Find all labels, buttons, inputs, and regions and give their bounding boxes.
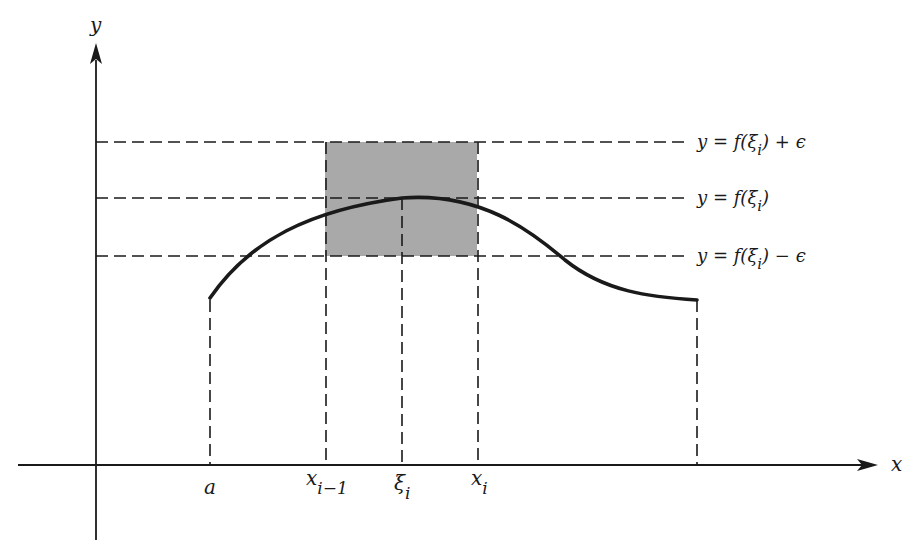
lower-prefix: y = f(ξ — [696, 245, 758, 266]
label-lower-bound: y = f(ξi) − ϵ — [696, 245, 806, 273]
upper-prefix: y = f(ξ — [696, 131, 758, 152]
label-function-value: y = f(ξi) — [696, 187, 769, 215]
tick-x-i-minus-1-base: x — [306, 466, 317, 490]
lower-suffix: ) − ϵ — [761, 245, 806, 266]
tick-x-i-base: x — [471, 466, 482, 490]
tick-x-i-minus-1-sub: i−1 — [317, 478, 348, 498]
upper-suffix: ) + ϵ — [761, 131, 806, 152]
tick-label-a: a — [204, 475, 216, 499]
epsilon-band-diagram: y x a xi−1 ξi xi y = f(ξi) + ϵ y = f(ξi)… — [0, 0, 919, 553]
tick-xi-i-sub: i — [405, 483, 410, 503]
middle-prefix: y = f(ξ — [696, 187, 758, 208]
tick-label-x-i-minus-1: xi−1 — [306, 466, 348, 498]
y-axis-label: y — [89, 13, 102, 37]
x-axis-label: x — [891, 452, 902, 476]
label-upper-bound: y = f(ξi) + ϵ — [696, 131, 806, 159]
middle-suffix: ) — [761, 187, 769, 208]
tick-x-i-sub: i — [482, 478, 487, 498]
tick-label-x-i: xi — [471, 466, 488, 498]
tick-label-xi-i: ξi — [394, 471, 410, 503]
